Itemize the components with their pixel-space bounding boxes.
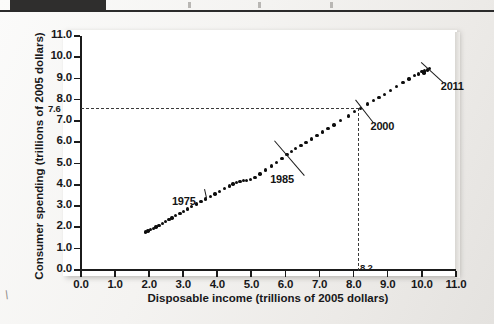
y-tick-label: 5.0 xyxy=(57,156,72,168)
x-reference-value-label: 8.2 xyxy=(360,262,373,273)
data-point xyxy=(366,102,369,105)
y-tick xyxy=(74,184,80,186)
data-point xyxy=(178,212,181,215)
x-tick xyxy=(387,271,389,277)
x-tick xyxy=(285,271,287,277)
x-tick xyxy=(80,271,82,277)
y-tick xyxy=(74,99,80,101)
data-point xyxy=(170,216,173,219)
header-mark xyxy=(188,2,191,8)
data-point xyxy=(186,207,189,210)
data-point xyxy=(383,93,386,96)
page-header-rule xyxy=(0,10,494,12)
data-point xyxy=(199,200,202,203)
x-tick xyxy=(216,271,218,277)
plot-area xyxy=(63,30,457,276)
y-tick-label: 2.0 xyxy=(57,219,72,231)
x-axis-title: Disposable income (trillions of 2005 dol… xyxy=(80,292,456,304)
data-point xyxy=(332,123,335,126)
y-tick xyxy=(74,56,80,58)
y-axis-line xyxy=(80,36,82,271)
y-tick-label: 7.0 xyxy=(57,113,72,125)
annotation-label-1985: 1985 xyxy=(270,173,294,185)
x-tick xyxy=(250,271,252,277)
data-point xyxy=(258,172,261,175)
y-tick xyxy=(74,35,80,37)
y-tick-label: 9.0 xyxy=(57,71,72,83)
y-tick xyxy=(74,120,80,122)
y-tick xyxy=(74,226,80,228)
y-tick-label: 10.0 xyxy=(50,49,72,61)
y-tick xyxy=(74,248,80,250)
data-point xyxy=(304,141,307,144)
data-point xyxy=(315,134,318,137)
x-tick xyxy=(455,271,457,277)
y-tick-label: 0.0 xyxy=(57,262,72,274)
y-tick-label: 4.0 xyxy=(57,177,72,189)
data-point xyxy=(321,130,324,133)
header-mark xyxy=(330,2,333,8)
x-tick xyxy=(319,271,321,277)
figure-root: 0.01.02.03.04.05.06.07.08.09.010.011.0 0… xyxy=(0,0,494,324)
x-tick-label: 11.0 xyxy=(436,278,476,290)
data-point xyxy=(270,164,273,167)
reference-line-horizontal xyxy=(81,108,359,109)
y-tick xyxy=(74,163,80,165)
y-tick-label: 8.0 xyxy=(57,92,72,104)
data-point xyxy=(280,157,283,160)
data-point xyxy=(310,137,313,140)
y-tick xyxy=(74,141,80,143)
data-point xyxy=(218,190,221,193)
y-tick-label: 1.0 xyxy=(57,241,72,253)
y-tick xyxy=(74,205,80,207)
x-tick xyxy=(353,271,355,277)
header-mark xyxy=(258,2,261,8)
data-point xyxy=(347,114,350,117)
x-tick xyxy=(114,271,116,277)
y-tick-label: 3.0 xyxy=(57,198,72,210)
x-axis-line xyxy=(80,269,456,271)
x-tick xyxy=(421,271,423,277)
data-point xyxy=(372,99,375,102)
y-tick xyxy=(74,78,80,80)
x-tick xyxy=(182,271,184,277)
annotation-label-1975: 1975 xyxy=(172,195,196,207)
data-point xyxy=(407,77,410,80)
y-reference-value-label: 7.6 xyxy=(48,103,61,114)
data-point xyxy=(253,176,256,179)
data-point xyxy=(213,192,216,195)
data-point xyxy=(377,96,380,99)
data-point xyxy=(422,71,425,74)
y-tick-label: 6.0 xyxy=(57,134,72,146)
y-axis-title: Consumer spending (trillions of 2005 dol… xyxy=(33,31,45,281)
annotation-label-2011: 2011 xyxy=(441,80,464,92)
y-tick-label: 11.0 xyxy=(51,28,72,40)
reference-line-vertical xyxy=(358,108,359,271)
x-tick xyxy=(148,271,150,277)
plot-area-edge xyxy=(455,32,460,278)
